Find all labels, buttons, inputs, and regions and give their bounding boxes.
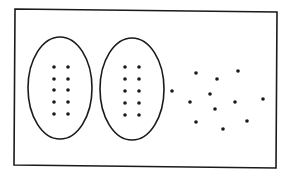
grouped-dot [52,77,56,81]
loose-dot [188,100,192,104]
loose-dot [170,89,174,93]
grouped-dots [52,65,141,117]
grouped-dot [123,113,127,117]
loose-dot [221,127,225,131]
loose-dots [170,69,265,131]
loose-dot [236,69,240,73]
grouped-dot [66,112,70,116]
grouped-dot [66,100,70,104]
ellipse-groups [28,37,164,140]
grouped-dot [52,112,56,116]
grouped-dot [66,88,70,92]
loose-dot [208,92,212,96]
grouped-dot [137,77,141,81]
loose-dot [215,77,219,81]
loose-dot [233,100,237,104]
grouping-diagram [0,0,291,178]
grouped-dot [137,113,141,117]
grouped-dot [52,65,56,69]
ellipse-group-1 [28,37,92,139]
grouped-dot [137,101,141,105]
grouped-dot [137,89,141,93]
grouped-dot [52,100,56,104]
grouped-dot [52,88,56,92]
grouped-dot [137,65,141,69]
grouped-dot [123,77,127,81]
loose-dot [194,71,198,75]
loose-dot [194,120,198,124]
grouped-dot [66,65,70,69]
grouped-dot [66,77,70,81]
ellipse-group-2 [100,38,164,140]
grouped-dot [123,101,127,105]
grouped-dot [123,89,127,93]
loose-dot [261,97,265,101]
loose-dot [213,107,217,111]
loose-dot [245,119,249,123]
grouped-dot [123,65,127,69]
diagram-canvas [0,0,291,178]
